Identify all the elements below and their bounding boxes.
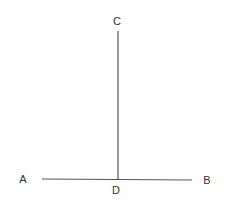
point-label-a: A [19, 173, 27, 185]
point-label-c: C [113, 15, 121, 27]
diagram-svg: A B C D [0, 0, 229, 209]
point-label-b: B [203, 174, 210, 186]
point-label-d: D [112, 184, 120, 196]
segment-ab [42, 179, 192, 180]
diagram-canvas: A B C D [0, 0, 229, 209]
